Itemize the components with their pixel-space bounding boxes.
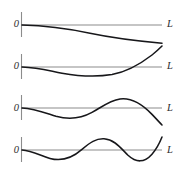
wave-panel-3: 0 L	[0, 83, 180, 125]
wave-curve-3	[22, 99, 162, 125]
wave-curve-1	[22, 25, 162, 43]
wave-plot-2	[0, 42, 180, 84]
wave-plot-1	[0, 0, 180, 42]
wave-curve-2	[22, 46, 162, 76]
origin-label-3: 0	[7, 103, 19, 114]
length-label-2: L	[167, 61, 173, 72]
origin-label-2: 0	[7, 61, 19, 72]
wave-curve-4	[22, 137, 162, 161]
length-label-4: L	[167, 145, 173, 156]
wave-plot-4	[0, 125, 180, 167]
mode-shapes-figure: 0 L 0 L 0 L 0 L	[0, 0, 180, 171]
length-label-1: L	[167, 19, 173, 30]
origin-label-1: 0	[7, 19, 19, 30]
wave-plot-3	[0, 83, 180, 125]
wave-panel-1: 0 L	[0, 0, 180, 42]
origin-label-4: 0	[7, 145, 19, 156]
length-label-3: L	[167, 103, 173, 114]
wave-panel-4: 0 L	[0, 125, 180, 167]
wave-panel-2: 0 L	[0, 42, 180, 84]
